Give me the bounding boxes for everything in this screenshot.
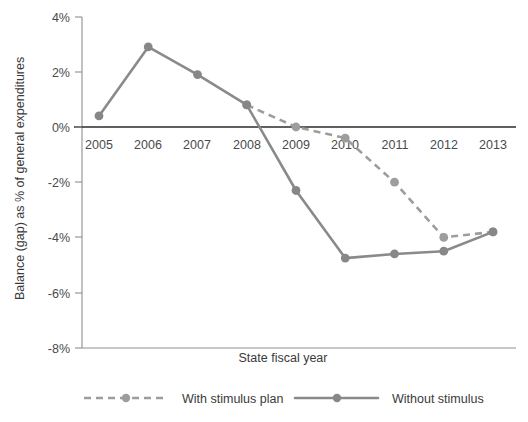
- chart-legend: With stimulus plan Without stimulus: [84, 392, 484, 406]
- y-tick-label: 4%: [52, 11, 70, 25]
- legend-label-without-stimulus: Without stimulus: [392, 392, 484, 406]
- data-point: [144, 43, 153, 52]
- x-tick-label: 2007: [183, 138, 211, 152]
- data-point: [341, 134, 350, 143]
- y-axis-title: Balance (gap) as % of general expenditur…: [13, 57, 27, 300]
- y-tick-label: -8%: [48, 342, 70, 356]
- data-point: [439, 247, 448, 256]
- data-point: [242, 101, 251, 110]
- data-point: [292, 123, 301, 132]
- legend-marker-dashed: [122, 394, 130, 402]
- data-point: [390, 178, 399, 187]
- legend-marker-solid: [333, 394, 341, 402]
- y-tick-label: -2%: [48, 176, 70, 190]
- data-point: [341, 254, 350, 263]
- line-chart: 4% 2% 0% -2% -4% -6% -8% Balance (gap) a…: [0, 0, 528, 422]
- data-point: [95, 112, 104, 121]
- data-point: [292, 186, 301, 195]
- x-tick-label: 2006: [134, 138, 162, 152]
- y-tick-marks: [75, 17, 82, 348]
- x-tick-label: 2009: [282, 138, 310, 152]
- data-point: [439, 233, 448, 242]
- x-tick-label: 2012: [430, 138, 458, 152]
- y-tick-label: -6%: [48, 287, 70, 301]
- y-tick-label: 2%: [52, 66, 70, 80]
- data-point: [390, 250, 399, 259]
- legend-label-with-stimulus-plan: With stimulus plan: [182, 392, 283, 406]
- x-tick-label: 2013: [479, 138, 507, 152]
- x-tick-labels: 2005 2006 2007 2008 2009 2010 2011 2012 …: [85, 138, 507, 152]
- y-tick-label: -4%: [48, 231, 70, 245]
- x-tick-label: 2005: [85, 138, 113, 152]
- series-markers-with-stimulus-plan: [242, 101, 497, 242]
- x-tick-label: 2011: [382, 138, 409, 152]
- data-point: [193, 70, 202, 79]
- y-tick-label: 0%: [52, 121, 70, 135]
- chart-container: 4% 2% 0% -2% -4% -6% -8% Balance (gap) a…: [0, 0, 528, 422]
- data-point: [489, 227, 498, 236]
- x-axis-title: State fiscal year: [239, 351, 328, 365]
- x-tick-label: 2008: [233, 138, 261, 152]
- y-tick-labels: 4% 2% 0% -2% -4% -6% -8%: [48, 11, 70, 356]
